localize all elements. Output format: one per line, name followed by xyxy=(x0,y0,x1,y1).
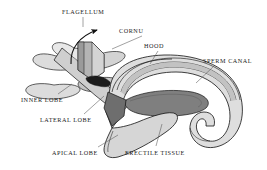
label-cornu: CORNU xyxy=(119,28,143,34)
erectile-tissue-shape xyxy=(125,90,208,116)
label-inner-lobe: INNER LOBE xyxy=(21,97,63,103)
label-apical-lobe: APICAL LOBE xyxy=(52,150,98,156)
label-erectile-tissue: ERECTILE TISSUE xyxy=(125,150,185,156)
label-flagellum: FLAGELLUM xyxy=(62,9,104,15)
label-lateral-lobe: LATERAL LOBE xyxy=(40,117,92,123)
leader-lateral-lobe xyxy=(84,96,104,114)
leader-cornu xyxy=(112,36,142,49)
label-sperm-canal: SPERM CANAL xyxy=(203,58,252,64)
diagram-illustration xyxy=(0,0,267,170)
diagram-shapes xyxy=(26,17,243,158)
anatomical-diagram-figure: FLAGELLUM CORNU HOOD SPERM CANAL INNER L… xyxy=(0,0,267,170)
label-hood: HOOD xyxy=(144,43,164,49)
